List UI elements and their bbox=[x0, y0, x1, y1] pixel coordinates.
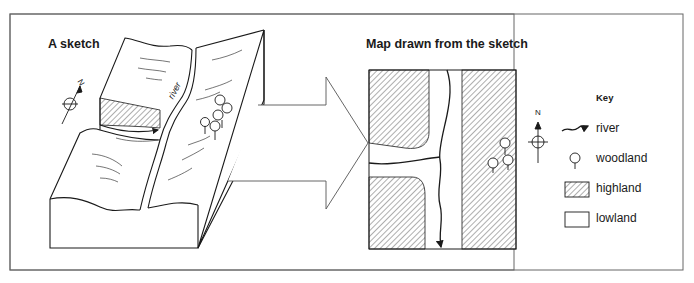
key-label-woodland: woodland bbox=[596, 151, 647, 165]
map-highland-nw bbox=[369, 70, 429, 148]
sketch-title: A sketch bbox=[48, 37, 100, 51]
map-north-label: N bbox=[535, 108, 541, 117]
key-lowland-swatch bbox=[565, 212, 589, 227]
key-river-icon bbox=[562, 126, 588, 131]
key-symbols bbox=[562, 126, 589, 227]
map-panel bbox=[369, 70, 516, 249]
map-highland-sw bbox=[369, 177, 425, 249]
key-label-highland: highland bbox=[596, 181, 641, 195]
map-title: Map drawn from the sketch bbox=[366, 37, 528, 51]
key-highland-swatch bbox=[565, 182, 589, 197]
diagram-svg bbox=[0, 0, 694, 283]
key-title: Key bbox=[596, 92, 613, 103]
sketch-compass-icon bbox=[62, 86, 82, 124]
key-label-river: river bbox=[596, 121, 619, 135]
sketch-woodland-trees bbox=[201, 95, 233, 140]
key-label-lowland: lowland bbox=[596, 211, 637, 225]
sketch-block-diagram bbox=[50, 30, 264, 248]
diagram-canvas: A sketch Map drawn from the sketch N riv… bbox=[0, 0, 694, 283]
key-tree-icon bbox=[570, 153, 580, 169]
map-compass-icon bbox=[528, 122, 548, 163]
